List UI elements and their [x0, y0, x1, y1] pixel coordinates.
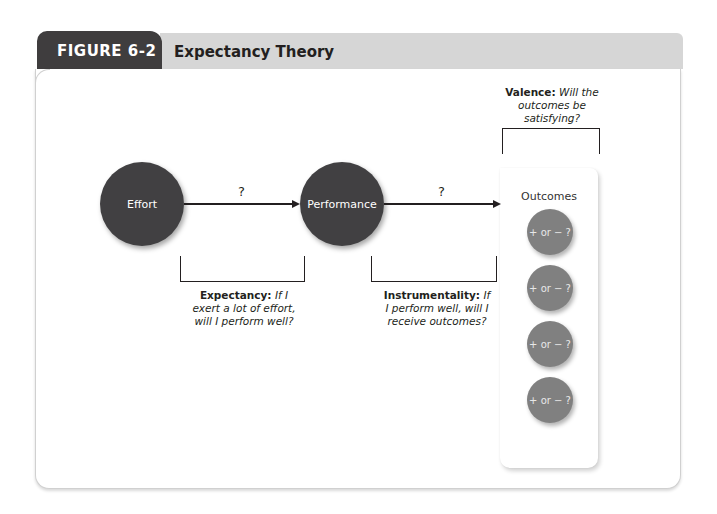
outcome-circle: + or − ?	[527, 209, 573, 255]
expectancy-caption: Expectancy: If I exert a lot of effort, …	[186, 289, 302, 328]
instrumentality-bracket	[371, 256, 497, 282]
arrow-head-icon	[493, 200, 501, 208]
instrumentality-caption: Instrumentality: If I perform well, will…	[382, 289, 492, 328]
performance-node: Performance	[300, 162, 384, 246]
outcome-circle: + or − ?	[527, 377, 573, 423]
expectancy-question-mark: ?	[238, 184, 245, 199]
effort-node: Effort	[100, 162, 184, 246]
outcomes-title: Outcomes	[500, 190, 598, 203]
outcome-circle: + or − ?	[527, 265, 573, 311]
valence-caption: Valence: Will the outcomes be satisfying…	[500, 86, 604, 125]
instrumentality-arrow-line	[384, 203, 494, 205]
figure-title: Expectancy Theory	[174, 33, 334, 71]
arrow-head-icon	[292, 200, 300, 208]
valence-bracket	[502, 128, 600, 154]
valence-term: Valence:	[505, 86, 555, 98]
expectancy-arrow-line	[184, 203, 294, 205]
outcome-circle: + or − ?	[527, 321, 573, 367]
instrumentality-question-mark: ?	[438, 184, 445, 199]
expectancy-bracket	[180, 256, 305, 282]
expectancy-term: Expectancy:	[200, 289, 272, 301]
figure-label: FIGURE 6-2	[37, 31, 162, 69]
instrumentality-term: Instrumentality:	[384, 289, 480, 301]
